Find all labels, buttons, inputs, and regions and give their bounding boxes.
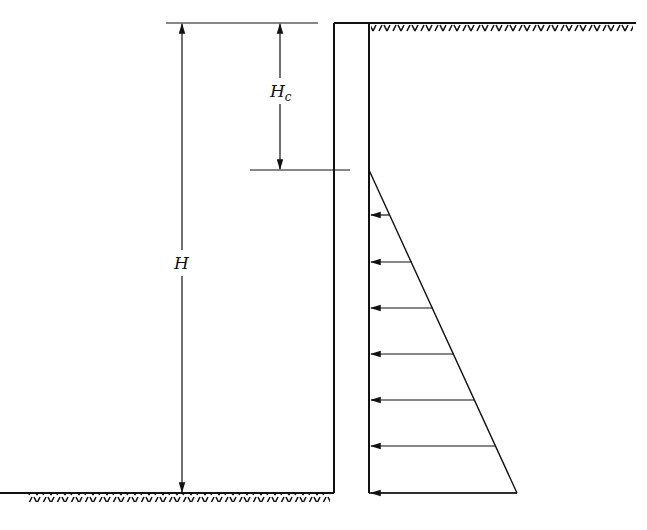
ground-surface-excavation — [0, 493, 334, 502]
pressure-arrows — [371, 215, 517, 493]
pressure-distribution — [369, 170, 517, 493]
label-h: H — [173, 253, 190, 273]
label-hc: Hc — [269, 81, 292, 104]
ground-surface-retained — [334, 23, 636, 32]
retaining-wall — [334, 23, 369, 493]
retaining-wall-diagram: H Hc — [0, 0, 647, 530]
dimension-hc: Hc — [269, 24, 292, 169]
dimension-h: H — [173, 24, 190, 492]
